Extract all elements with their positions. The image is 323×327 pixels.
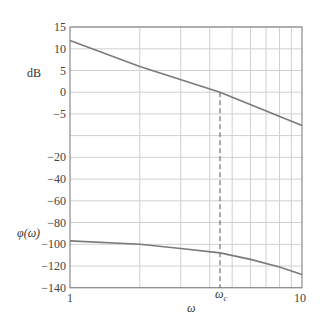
omega-c-base: ω: [215, 287, 223, 301]
phase-curve: [70, 241, 302, 275]
x-tick-10: 10: [294, 291, 306, 305]
y-tick-label: 5: [60, 64, 66, 78]
x-tick-1: 1: [67, 291, 73, 305]
y-tick-label: 0: [60, 85, 66, 99]
y-tick-label: 10: [54, 42, 66, 56]
y-tick-label: −40: [47, 172, 66, 186]
db-axis-label: dB: [27, 66, 41, 80]
y-tick-label: 15: [54, 20, 66, 34]
y-tick-label: −20: [47, 150, 66, 164]
omega-c-subscript: c: [223, 294, 227, 303]
magnitude-curve: [70, 41, 302, 126]
y-tick-label: −120: [41, 259, 66, 273]
bode-plot: 151050−5−20−40−60−80−100−120−140 dB φ(ω)…: [0, 0, 323, 327]
y-axis-tick-labels: 151050−5−20−40−60−80−100−120−140: [41, 20, 66, 295]
y-tick-label: −5: [53, 107, 66, 121]
omega-axis-label: ω: [187, 301, 195, 315]
y-tick-label: −60: [47, 194, 66, 208]
omega-c-label: ωc: [215, 287, 227, 303]
phi-axis-label: φ(ω): [17, 226, 40, 240]
y-tick-label: −100: [41, 237, 66, 251]
y-tick-label: −140: [41, 281, 66, 295]
y-tick-label: −80: [47, 216, 66, 230]
